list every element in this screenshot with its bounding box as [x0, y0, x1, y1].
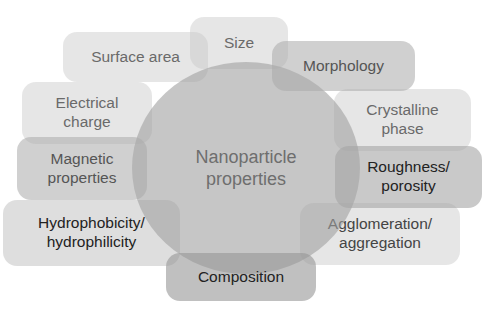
node-surface-area: Surface area	[63, 32, 208, 82]
node-label-line1: Hydrophobicity/	[38, 214, 145, 233]
node-label: Size	[224, 34, 254, 53]
node-composition: Composition	[166, 253, 316, 301]
node-label-line2: hydrophilicity	[47, 233, 137, 252]
node-label-line2: phase	[381, 120, 423, 139]
node-label: Morphology	[303, 57, 384, 76]
node-label-line1: Crystalline	[366, 101, 438, 120]
center-label-line1: Nanoparticle	[195, 146, 296, 169]
node-morphology: Morphology	[272, 41, 415, 91]
center-circle: Nanoparticle properties	[132, 62, 360, 274]
node-label-line1: Magnetic	[51, 150, 114, 169]
node-label-line2: properties	[48, 169, 117, 188]
node-roughness-porosity: Roughness/ porosity	[335, 146, 482, 208]
node-magnetic-properties: Magnetic properties	[17, 137, 147, 200]
node-electrical-charge: Electrical charge	[22, 82, 152, 144]
node-label-line2: charge	[63, 113, 110, 132]
node-label: Composition	[198, 268, 284, 287]
node-label-line1: Roughness/	[367, 158, 450, 177]
node-label-line1: Electrical	[56, 94, 119, 113]
node-label-line2: aggregation	[339, 234, 421, 253]
node-label: Surface area	[91, 48, 180, 67]
nanoparticle-properties-diagram: Surface area Size Electrical charge Crys…	[0, 0, 487, 309]
node-label-line2: porosity	[381, 177, 435, 196]
center-label-line2: properties	[206, 168, 286, 191]
